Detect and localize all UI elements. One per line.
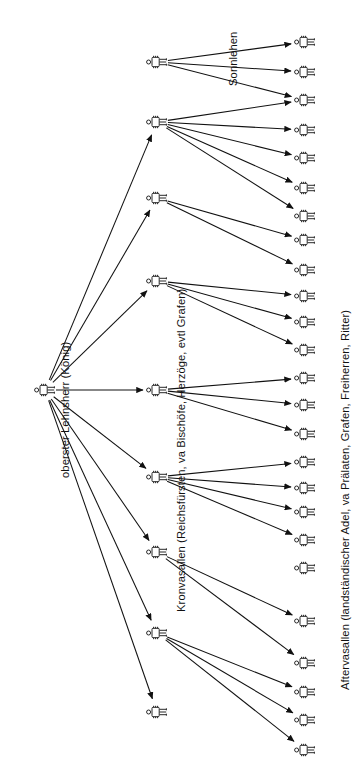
node-aftervasall[interactable] [293,118,317,142]
node-aftervasall[interactable] [293,680,317,704]
person-icon [293,450,317,474]
person-icon [293,146,317,170]
node-aftervasall[interactable] [293,60,317,84]
node-kronvasall[interactable] [145,540,169,564]
edge [168,125,292,155]
node-aftervasall[interactable] [293,258,317,282]
node-aftervasall[interactable] [293,450,317,474]
edges [49,44,294,741]
person-icon [293,680,317,704]
person-icon [293,708,317,732]
node-aftervasall[interactable] [293,528,317,552]
edge [167,637,292,687]
edge [166,639,292,713]
person-icon [293,366,317,390]
node-kronvasall[interactable] [145,700,169,724]
node-kronvasall[interactable] [145,110,169,134]
person-icon [293,118,317,142]
edge [168,102,291,120]
node-aftervasall[interactable] [293,30,317,54]
node-aftervasall[interactable] [293,310,317,334]
person-icon [145,378,169,402]
node-aftervasall[interactable] [293,500,317,524]
person-icon [293,258,317,282]
node-aftervasall[interactable] [293,738,317,762]
edge [168,123,291,130]
person-icon [293,609,317,633]
node-aftervasall[interactable] [293,422,317,446]
node-kronvasall[interactable] [145,378,169,402]
person-icon [293,310,317,334]
person-icon [145,269,169,293]
person-icon [293,422,317,446]
person-icon [293,30,317,54]
node-aftervasall[interactable] [293,366,317,390]
node-aftervasall[interactable] [293,284,317,308]
edge [167,203,293,264]
edge [167,126,292,182]
person-icon [293,284,317,308]
person-icon [145,50,169,74]
node-aftervasall[interactable] [293,708,317,732]
person-icon [145,186,169,210]
edge [166,640,294,741]
person-icon [293,651,317,675]
person-icon [293,476,317,500]
node-aftervasall[interactable] [293,176,317,200]
person-icon [293,528,317,552]
person-icon [293,60,317,84]
person-icon [293,393,317,417]
node-root[interactable] [33,378,57,402]
person-icon [293,738,317,762]
label-level3: Aftervasallen (landständischer Adel, va … [340,310,351,690]
label-root: oberster Lehnsherr (König) [60,342,71,478]
node-kronvasall[interactable] [145,465,169,489]
person-icon [293,88,317,112]
node-kronvasall[interactable] [145,186,169,210]
node-aftervasall[interactable] [293,338,317,362]
node-aftervasall[interactable] [293,88,317,112]
node-aftervasall[interactable] [293,393,317,417]
label-level2: Kronvasallen (Reichsfürsten, va Bischöfe… [176,289,187,612]
person-icon [145,465,169,489]
node-aftervasall[interactable] [293,204,317,228]
person-icon [33,378,57,402]
edge [168,201,292,236]
person-icon [145,540,169,564]
lehnspyramide-diagram: oberster Lehnsherr (König) Kronvasallen … [0,0,354,780]
node-aftervasall[interactable] [293,228,317,252]
person-icon [293,500,317,524]
node-kronvasall[interactable] [145,621,169,645]
person-icon [293,556,317,580]
node-aftervasall[interactable] [293,609,317,633]
person-icon [145,700,169,724]
label-sublease: Sonnlehen [228,32,239,86]
node-kronvasall[interactable] [145,50,169,74]
person-icon [293,176,317,200]
person-icon [293,204,317,228]
person-icon [293,228,317,252]
node-aftervasall[interactable] [293,476,317,500]
node-kronvasall[interactable] [145,269,169,293]
person-icon [145,621,169,645]
person-icon [145,110,169,134]
person-icon [293,338,317,362]
node-aftervasall[interactable] [293,146,317,170]
node-aftervasall[interactable] [293,556,317,580]
node-aftervasall[interactable] [293,651,317,675]
